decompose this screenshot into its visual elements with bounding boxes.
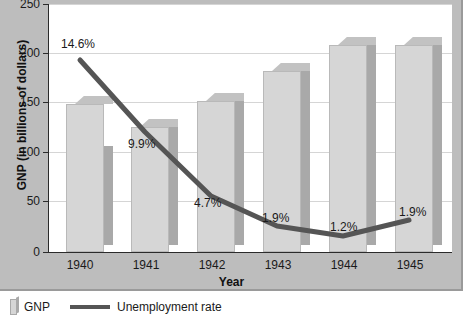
x-tick-label-1941: 1941 — [116, 258, 176, 272]
bar-front-1945 — [395, 45, 433, 252]
data-label-1944: 1.2% — [330, 220, 357, 234]
bar-top-1944 — [329, 37, 376, 45]
bar-swatch-icon — [10, 299, 17, 315]
bar-1942 — [197, 4, 244, 252]
data-label-1940: 14.6% — [61, 37, 95, 51]
data-label-1945: 1.9% — [399, 205, 426, 219]
x-tick-label-1942: 1942 — [182, 258, 242, 272]
x-tick-label-1945: 1945 — [380, 258, 440, 272]
bar-top-1945 — [395, 37, 442, 45]
bar-side-1941 — [169, 120, 178, 245]
y-tick-mark-250 — [43, 4, 48, 5]
x-tick-label-1944: 1944 — [314, 258, 374, 272]
bar-top-1940 — [66, 96, 113, 104]
legend-label-gnp: GNP — [24, 300, 50, 314]
bar-side-1940 — [104, 146, 113, 245]
y-axis-line — [48, 4, 49, 253]
bar-1944 — [329, 4, 376, 252]
data-label-1942: 4.7% — [194, 196, 221, 210]
y-tick-mark-150 — [43, 102, 48, 103]
bar-front-1942 — [197, 101, 235, 252]
bar-top-1941 — [131, 119, 178, 127]
bar-1941 — [131, 4, 178, 252]
bar-side-1945 — [433, 38, 442, 245]
x-tick-label-1940: 1940 — [50, 258, 110, 272]
bar-top-1943 — [263, 63, 310, 71]
y-tick-mark-50 — [43, 201, 48, 202]
chart-legend: GNP Unemployment rate — [10, 297, 242, 317]
bar-side-1942 — [235, 94, 244, 245]
line-swatch-icon — [70, 305, 110, 309]
bar-side-1943 — [301, 64, 310, 245]
legend-entry-gnp[interactable]: GNP — [10, 299, 50, 315]
bar-side-1944 — [367, 38, 376, 245]
bar-front-1940 — [66, 104, 104, 252]
bar-top-1942 — [197, 93, 244, 101]
x-tick-label-1943: 1943 — [248, 258, 308, 272]
y-axis-title: GNP (in billions of dollars) — [15, 0, 29, 230]
x-axis-title: Year — [0, 275, 463, 289]
y-tick-mark-100 — [43, 152, 48, 153]
y-tick-label-0: 0 — [0, 246, 40, 258]
chart-figure: 250 200 150 100 50 0 GNP (in billions of… — [0, 0, 463, 319]
legend-entry-unemployment-rate[interactable]: Unemployment rate — [70, 300, 222, 314]
legend-label-unemployment-rate: Unemployment rate — [117, 300, 222, 314]
y-tick-mark-0 — [43, 252, 48, 253]
data-label-1943: 1.9% — [262, 211, 289, 225]
plot-area — [48, 4, 452, 252]
y-tick-mark-200 — [43, 53, 48, 54]
x-axis-line — [48, 252, 452, 253]
data-label-1941: 9.9% — [128, 137, 155, 151]
